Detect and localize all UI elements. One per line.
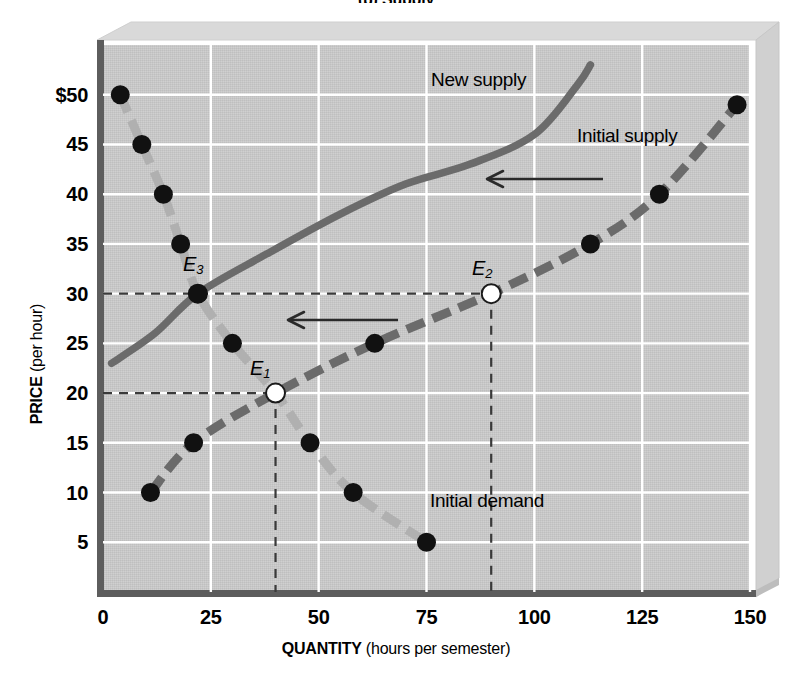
- x-tick-label-0: 0: [63, 607, 143, 627]
- equilibrium-marker-e1: [266, 384, 285, 403]
- y-tick-label-10: 10: [0, 483, 88, 503]
- data-point-marker: [132, 135, 151, 154]
- shift-arrows: [288, 171, 603, 328]
- eq-sub-e1: 1: [263, 366, 270, 381]
- y-axis-title-unit: (per hour): [28, 304, 45, 372]
- chart-graphics: [0, 0, 792, 676]
- curve-new-supply: [112, 65, 591, 363]
- curve-initial-supply: [150, 105, 737, 493]
- y-tick-label-45: 45: [0, 134, 88, 154]
- curve-label-new-supply: New supply: [431, 70, 526, 89]
- x-tick-label-150: 150: [710, 607, 790, 627]
- y-tick-label-40: 40: [0, 184, 88, 204]
- x-tick-label-50: 50: [279, 607, 359, 627]
- x-axis-title-bold: QUANTITY: [282, 640, 362, 657]
- data-point-marker: [154, 185, 173, 204]
- eq-letter-e1: E: [250, 357, 263, 379]
- data-point-marker: [111, 85, 130, 104]
- data-point-marker: [171, 234, 190, 253]
- y-axis-title-bold: PRICE: [28, 376, 45, 424]
- x-tick-label-125: 125: [602, 607, 682, 627]
- figure-root: (b) Supply $5045403530252015105: [0, 0, 792, 676]
- data-point-marker: [223, 334, 242, 353]
- data-markers: [111, 85, 747, 552]
- equilibrium-label-e1: E1: [250, 358, 271, 380]
- equilibrium-marker-e3: [188, 284, 208, 304]
- x-tick-label-25: 25: [171, 607, 251, 627]
- eq-sub-e3: 3: [196, 262, 203, 277]
- x-axis-title-unit: (hours per semester): [366, 640, 511, 657]
- eq-letter-e2: E: [472, 257, 485, 279]
- data-point-marker: [365, 334, 384, 353]
- data-point-marker: [728, 95, 747, 114]
- data-point-marker: [344, 483, 363, 502]
- data-point-marker: [417, 533, 436, 552]
- y-axis-title: PRICE (per hour): [28, 249, 46, 479]
- y-tick-label-5: 5: [0, 532, 88, 552]
- shift-arrow-upper: [487, 171, 603, 187]
- equilibrium-label-e2: E2: [472, 258, 493, 280]
- shift-arrow-lower: [288, 312, 398, 328]
- data-point-marker: [141, 483, 160, 502]
- y-tick-label-50: $50: [0, 85, 88, 105]
- x-tick-label-75: 75: [387, 607, 467, 627]
- data-point-marker: [301, 433, 320, 452]
- curve-label-initial-demand: Initial demand: [430, 491, 544, 510]
- equilibrium-label-e3: E3: [183, 254, 204, 276]
- data-point-marker: [184, 433, 203, 452]
- equilibrium-marker-e2: [482, 284, 501, 303]
- data-point-marker: [650, 185, 669, 204]
- x-tick-label-100: 100: [494, 607, 574, 627]
- data-point-marker: [581, 234, 600, 253]
- x-axis-title: QUANTITY (hours per semester): [0, 640, 792, 658]
- eq-letter-e3: E: [183, 253, 196, 275]
- curve-label-initial-supply: Initial supply: [577, 126, 677, 145]
- eq-sub-e2: 2: [485, 266, 492, 281]
